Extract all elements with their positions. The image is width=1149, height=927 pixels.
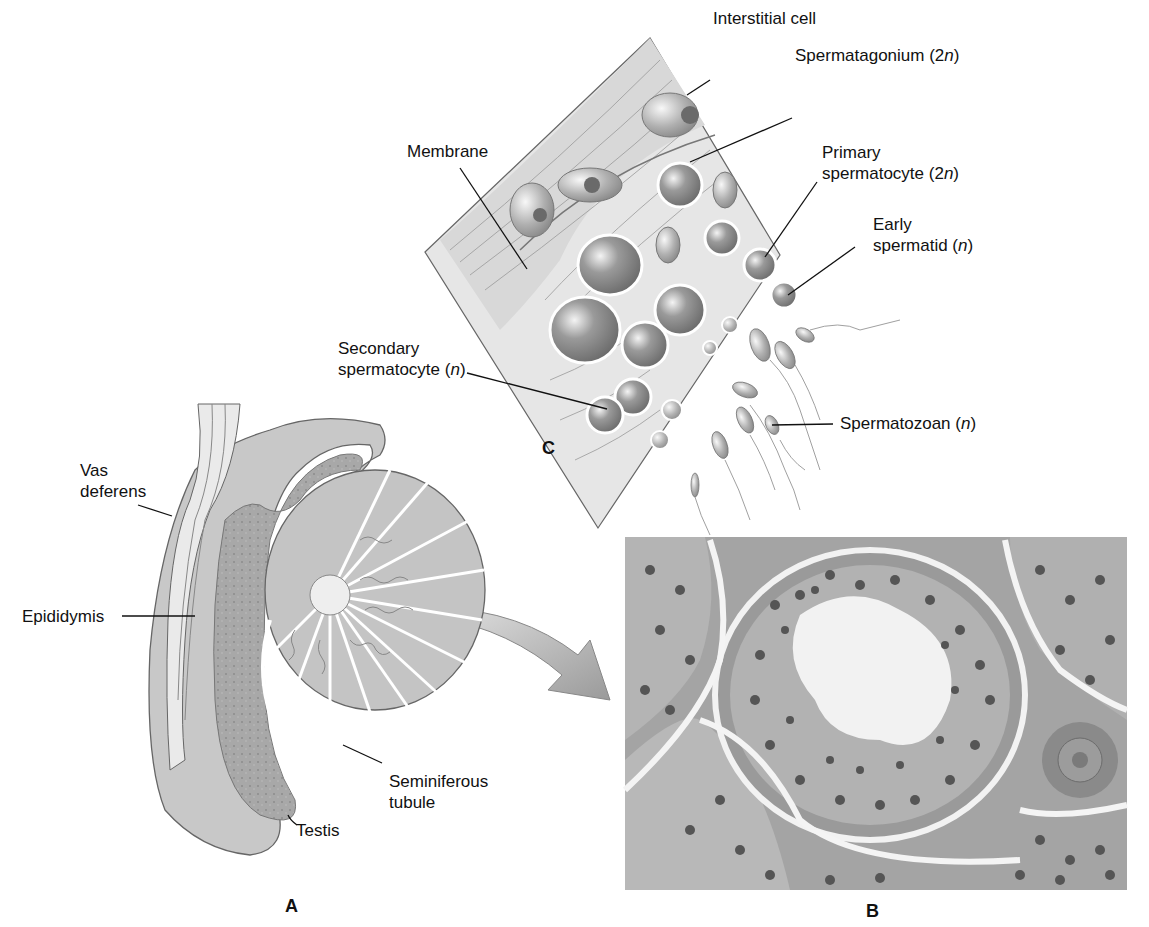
panel-letter-c: C: [542, 438, 555, 459]
panel-letter-b: B: [866, 901, 879, 922]
label-seminiferous-tubule: Seminiferoustubule: [389, 771, 488, 813]
label-interstitial-cell: Interstitial cell: [713, 8, 816, 29]
label-membrane: Membrane: [407, 141, 488, 162]
label-spermatozoan: Spermatozoan (n): [840, 413, 976, 434]
label-spermatagonium: Spermatagonium (2n): [795, 45, 959, 66]
label-testis: Testis: [296, 820, 339, 841]
label-primary-spermatocyte: Primaryspermatocyte (2n): [822, 142, 959, 184]
panel-letter-a: A: [285, 896, 298, 917]
panel-b-micrograph: [625, 537, 1127, 890]
label-epididymis: Epididymis: [22, 606, 104, 627]
label-early-spermatid: Earlyspermatid (n): [873, 214, 973, 256]
label-secondary-spermatocyte: Secondaryspermatocyte (n): [338, 338, 466, 380]
panel-c-illustration: [425, 38, 900, 535]
figure-artwork: [0, 0, 1149, 927]
label-vas-deferens: Vasdeferens: [80, 460, 146, 502]
